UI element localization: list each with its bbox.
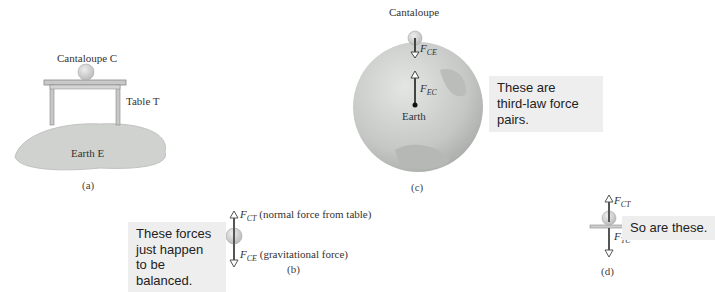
table-leg-right [116, 85, 120, 125]
cantaloupe-label: Cantaloupe [389, 6, 439, 18]
force-vector-symbol: F [614, 230, 621, 242]
balanced-note: These forces just happen to be balanced. [128, 222, 226, 292]
table-top [44, 80, 126, 85]
note-line: just happen [136, 242, 218, 258]
third-law-note: These are third-law force pairs. [489, 76, 603, 132]
note-line: These are [497, 80, 595, 96]
table-t-label: Table T [126, 95, 160, 107]
note-line: These forces [136, 226, 218, 242]
force-vector-symbol: F [614, 194, 621, 206]
force-vector-symbol: F [420, 82, 427, 94]
force-subscript: CE [427, 48, 437, 57]
note-line: pairs. [497, 112, 595, 128]
force-vector-symbol: F [420, 42, 427, 54]
earth-label: Earth [402, 110, 426, 122]
force-description: (gravitational force) [260, 248, 348, 260]
panel-c-graphics [353, 31, 483, 172]
force-description: (normal force from table) [259, 208, 371, 220]
caption-a: (a) [82, 179, 94, 191]
force-subscript: CT [247, 214, 257, 223]
force-ce-label: FCE (gravitational force) [240, 248, 348, 263]
caption-d: (d) [601, 265, 614, 277]
note-line: to be balanced. [136, 257, 218, 288]
so-are-these-note: So are these. [622, 216, 715, 240]
force-vector-symbol: F [240, 248, 247, 260]
force-subscript: CT [621, 200, 631, 209]
caption-c: (c) [411, 181, 423, 193]
force-ct-label: FCT (normal force from table) [240, 208, 371, 223]
force-vector-symbol: F [240, 208, 247, 220]
table-apron [50, 85, 120, 89]
force-ct-label: FCT [614, 194, 631, 209]
force-ec-label: FEC [420, 82, 437, 97]
cantaloupe [78, 64, 94, 80]
table-leg-left [50, 85, 54, 125]
note-line: third-law force [497, 96, 595, 112]
cantaloupe-c-label: Cantaloupe C [57, 52, 117, 64]
force-subscript: EC [427, 88, 437, 97]
force-ce-label: FCE [420, 42, 437, 57]
earth-e-label: Earth E [71, 147, 104, 159]
earth-center-dot [413, 103, 418, 108]
force-subscript: CE [247, 254, 257, 263]
caption-b: (b) [287, 263, 300, 275]
